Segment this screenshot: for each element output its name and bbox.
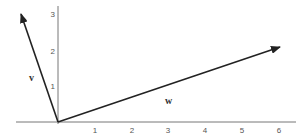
y-tick-3: 3: [51, 10, 56, 19]
vector-w-label: w: [165, 95, 173, 106]
vector-w-arrow: [58, 47, 280, 122]
x-tick-5: 5: [240, 126, 245, 135]
vector-v-label: v: [29, 72, 34, 83]
vector-v-arrow: [21, 14, 58, 122]
x-tick-6: 6: [277, 126, 282, 135]
y-tick-2: 2: [51, 47, 56, 56]
x-tick-2: 2: [130, 126, 135, 135]
y-tick-1: 1: [51, 82, 56, 91]
x-tick-4: 4: [203, 126, 208, 135]
x-tick-1: 1: [93, 126, 98, 135]
x-tick-3: 3: [166, 126, 171, 135]
vector-diagram: 1 2 3 4 5 6 1 2 3 v w: [0, 0, 299, 140]
